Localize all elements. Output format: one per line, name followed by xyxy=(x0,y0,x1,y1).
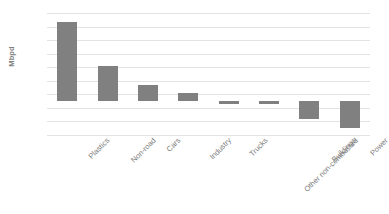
plot-area: 6.55.54.53.52.51.50.5-0.5-1.5-2.5 xyxy=(47,13,370,135)
bar xyxy=(259,101,279,104)
x-axis-label: Buildings xyxy=(330,136,358,164)
bar xyxy=(178,93,198,101)
x-axis-label: Industry xyxy=(208,136,233,161)
bars-group xyxy=(47,13,370,135)
x-axis-labels: PlasticsNon-roadCarsIndustryTrucksOther … xyxy=(47,136,370,214)
x-axis-label: Cars xyxy=(165,136,183,154)
bar xyxy=(219,101,239,104)
y-axis-title: Mbpd xyxy=(7,32,16,82)
bar xyxy=(98,66,118,101)
bar xyxy=(299,101,319,119)
bar xyxy=(138,85,158,101)
x-axis-label: Trucks xyxy=(247,136,269,158)
x-axis-label: Plastics xyxy=(87,136,112,161)
bar xyxy=(57,22,77,101)
bar xyxy=(340,101,360,128)
x-axis-label: Non-road xyxy=(129,136,157,164)
x-axis-label: Power xyxy=(368,136,389,157)
